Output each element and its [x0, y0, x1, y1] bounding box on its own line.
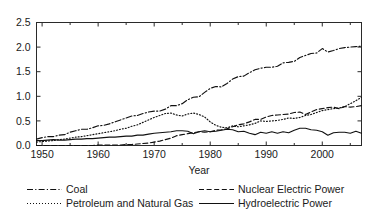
x-tick-label: 1970 [142, 148, 166, 160]
series-line-3 [37, 128, 362, 140]
data-series-group [37, 46, 362, 145]
plot-frame [37, 23, 362, 146]
y-tick-label: 0.5 [16, 115, 31, 127]
y-tick-label: 2.5 [16, 16, 31, 28]
y-tick-label: 2.0 [16, 41, 31, 53]
y-tick-label: 0.0 [16, 139, 31, 151]
series-line-0 [37, 46, 362, 139]
y-tick-label: 1.5 [16, 65, 31, 77]
y-tick-label: 1.0 [16, 90, 31, 102]
chart-figure: 0.00.51.01.52.02.5 195019601970198019902… [0, 0, 376, 222]
legend-label-2: Petroleum and Natural Gas [66, 197, 193, 209]
series-line-1 [37, 97, 362, 142]
axis-tick-marks [37, 23, 362, 146]
chart-svg: 0.00.51.01.52.02.5 195019601970198019902… [0, 0, 376, 222]
x-tick-label: 1950 [30, 148, 54, 160]
x-axis-tick-labels: 195019601970198019902000 [30, 148, 334, 160]
series-line-2 [37, 106, 362, 146]
legend-label-3: Hydroelectric Power [238, 197, 332, 209]
y-axis-tick-labels: 0.00.51.01.52.02.5 [16, 16, 31, 151]
x-tick-label: 1960 [86, 148, 110, 160]
x-tick-label: 1990 [255, 148, 279, 160]
x-axis-title: Year [188, 164, 210, 176]
legend-label-0: Coal [66, 183, 88, 195]
chart-legend: CoalNuclear Electric PowerPetroleum and … [27, 183, 345, 209]
legend-label-1: Nuclear Electric Power [238, 183, 345, 195]
x-tick-label: 2000 [311, 148, 335, 160]
x-tick-label: 1980 [199, 148, 223, 160]
